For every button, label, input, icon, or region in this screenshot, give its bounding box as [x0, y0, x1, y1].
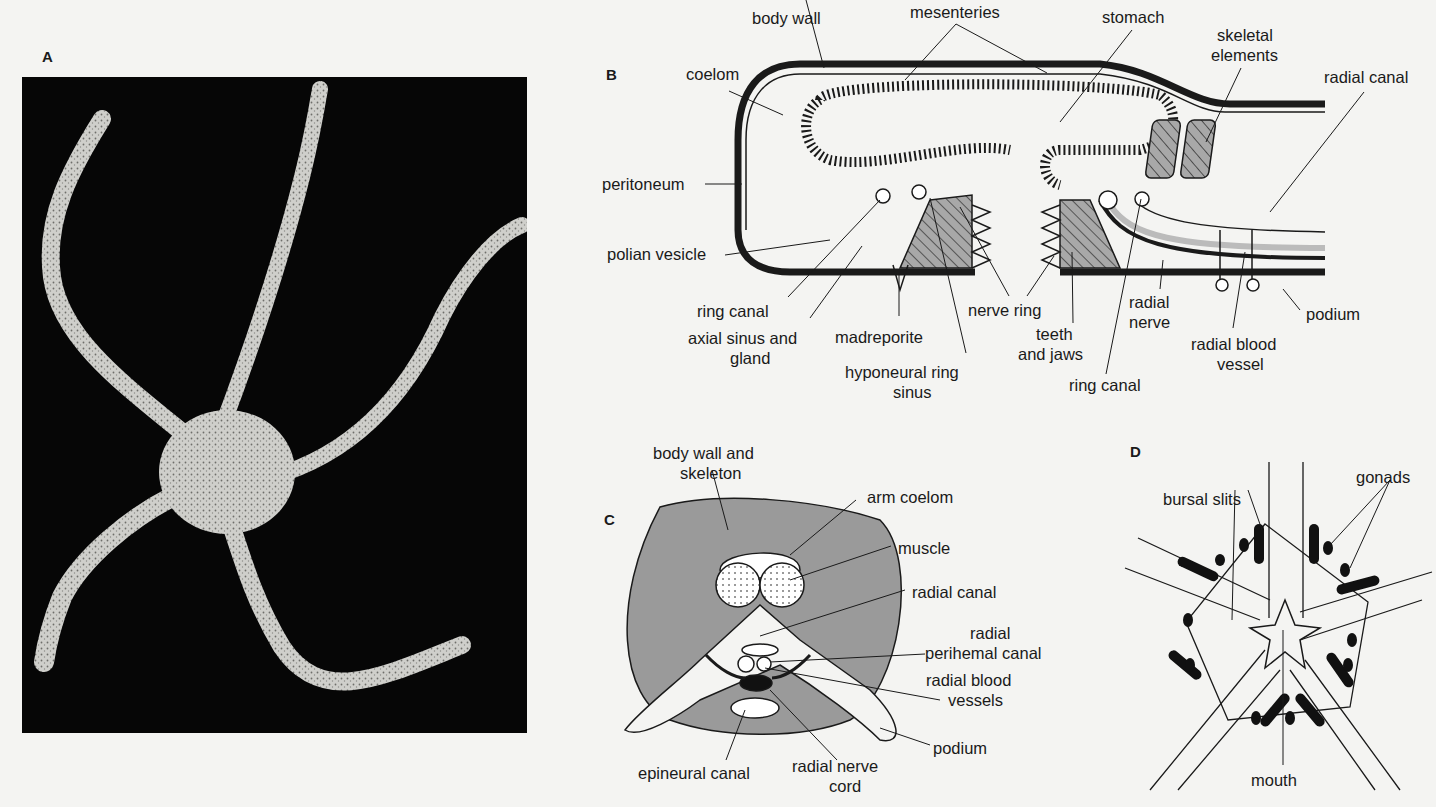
- label-radial-blood-vessel-1: radial blood: [1191, 334, 1276, 354]
- label-bursal-slits: bursal slits: [1163, 489, 1241, 509]
- label-stomach: stomach: [1102, 7, 1164, 27]
- label-body-wall-skeleton-2: skeleton: [680, 463, 741, 483]
- panel-c-cross-section: [625, 498, 901, 740]
- label-radial-canal-b: radial canal: [1324, 67, 1408, 87]
- label-hyponeural-1: hyponeural ring: [845, 362, 959, 382]
- panel-d-oral-view: [1125, 462, 1432, 790]
- label-radial-nerve-cord-1: radial nerve: [792, 756, 878, 776]
- label-body-wall-skeleton-1: body wall and: [653, 443, 754, 463]
- label-radial-blood-vessels-2: vessels: [948, 690, 1003, 710]
- label-epineural-canal: epineural canal: [638, 763, 750, 783]
- label-arm-coelom: arm coelom: [867, 487, 953, 507]
- label-podium-b: podium: [1306, 304, 1360, 324]
- label-nerve-ring: nerve ring: [968, 300, 1041, 320]
- label-teeth-2: and jaws: [1018, 344, 1083, 364]
- label-podium-c: podium: [933, 738, 987, 758]
- label-radial-blood-vessel-2: vessel: [1217, 354, 1264, 374]
- label-radial-canal-c: radial canal: [912, 582, 996, 602]
- label-perihemal-2: perihemal canal: [925, 643, 1041, 663]
- label-madreporite: madreporite: [835, 327, 923, 347]
- label-mesenteries: mesenteries: [910, 2, 1000, 22]
- label-radial-nerve-1: radial: [1129, 292, 1169, 312]
- label-mouth: mouth: [1251, 770, 1297, 790]
- panel-c-letter: C: [604, 511, 615, 528]
- label-polian-vesicle: polian vesicle: [607, 244, 706, 264]
- label-skeletal-elements-1: skeletal: [1217, 25, 1273, 45]
- label-gonads: gonads: [1356, 467, 1410, 487]
- label-ring-canal-right: ring canal: [1069, 375, 1141, 395]
- label-body-wall: body wall: [752, 8, 821, 28]
- label-hyponeural-2: sinus: [893, 382, 932, 402]
- label-radial-blood-vessels-1: radial blood: [926, 670, 1011, 690]
- label-ring-canal-left: ring canal: [697, 301, 769, 321]
- label-peritoneum: peritoneum: [602, 174, 685, 194]
- label-axial-sinus-1: axial sinus and: [688, 328, 797, 348]
- label-muscle: muscle: [898, 538, 950, 558]
- label-skeletal-elements-2: elements: [1211, 45, 1278, 65]
- label-teeth-1: teeth: [1036, 324, 1073, 344]
- panel-d-letter: D: [1130, 443, 1141, 460]
- label-radial-nerve-cord-2: cord: [829, 776, 861, 796]
- label-coelom: coelom: [686, 64, 739, 84]
- label-perihemal-1: radial: [970, 623, 1010, 643]
- label-radial-nerve-2: nerve: [1129, 312, 1170, 332]
- label-axial-sinus-2: gland: [730, 348, 770, 368]
- figure-drawings: [0, 0, 1436, 807]
